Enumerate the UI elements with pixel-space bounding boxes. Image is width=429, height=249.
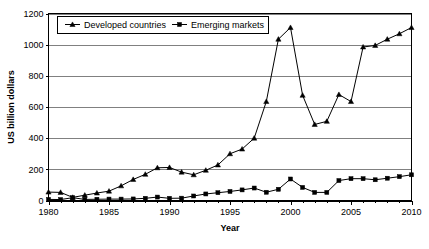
data-point (264, 99, 269, 104)
data-point (336, 92, 341, 97)
chart-canvas: 020040060080010001200 198019851990199520… (0, 0, 429, 249)
x-tick-label: 2000 (280, 207, 300, 217)
data-point (300, 93, 305, 98)
y-tick-label: 0 (38, 196, 43, 206)
data-point (143, 196, 147, 200)
y-tick-label: 1200 (23, 9, 43, 19)
data-point (397, 31, 402, 36)
y-tick-label: 400 (28, 133, 43, 143)
series-line (49, 175, 412, 200)
data-point (289, 177, 293, 181)
data-point (348, 99, 353, 104)
data-point (409, 25, 414, 30)
data-point (373, 178, 377, 182)
data-point (119, 183, 124, 188)
legend-label: Emerging markets (191, 20, 265, 30)
y-axis-tick-labels: 020040060080010001200 (23, 9, 48, 206)
data-point (204, 192, 208, 196)
data-point (168, 196, 172, 200)
y-tick-label: 200 (28, 165, 43, 175)
data-point (410, 173, 414, 177)
x-tick-label: 1995 (220, 207, 240, 217)
data-point (131, 197, 135, 201)
series-developed-countries (46, 25, 414, 199)
data-point (288, 25, 293, 30)
data-point (192, 194, 196, 198)
x-axis-title: Year (220, 223, 240, 233)
y-tick-label: 1000 (23, 40, 43, 50)
data-point (385, 176, 389, 180)
data-point (107, 197, 111, 201)
legend: Developed countriesEmerging markets (58, 17, 269, 34)
data-point (47, 197, 51, 201)
data-point (337, 179, 341, 183)
data-point (264, 190, 268, 194)
x-tick-label: 1980 (38, 207, 58, 217)
data-point (397, 175, 401, 179)
series-emerging-markets (47, 173, 414, 202)
data-point (276, 187, 280, 191)
y-tick-label: 800 (28, 71, 43, 81)
data-point (71, 196, 75, 200)
x-tick-label: 2010 (401, 207, 421, 217)
data-point (216, 191, 220, 195)
data-point (240, 188, 244, 192)
data-point (313, 190, 317, 194)
y-tick-label: 600 (28, 102, 43, 112)
data-point (180, 196, 184, 200)
data-point (361, 177, 365, 181)
data-point (349, 177, 353, 181)
line-chart: 020040060080010001200 198019851990199520… (0, 0, 429, 249)
x-tick-label: 1990 (159, 207, 179, 217)
legend-marker-square (178, 23, 182, 27)
data-point (228, 189, 232, 193)
series-group (46, 25, 414, 202)
gridlines-group (49, 15, 412, 202)
data-point (119, 197, 123, 201)
data-point (143, 172, 148, 177)
data-point (59, 198, 63, 202)
data-point (301, 185, 305, 189)
series-line (49, 28, 412, 198)
data-point (324, 119, 329, 124)
x-axis-tick-labels: 1980198519901995200020052010 (38, 207, 421, 217)
data-point (155, 195, 159, 199)
data-point (252, 186, 256, 190)
data-point (83, 197, 87, 201)
legend-label: Developed countries (84, 20, 167, 30)
y-axis-title: US billion dollars (6, 70, 16, 144)
data-point (252, 136, 257, 141)
data-point (325, 190, 329, 194)
x-tick-label: 1985 (99, 207, 119, 217)
data-point (95, 197, 99, 201)
x-tick-label: 2005 (341, 207, 361, 217)
